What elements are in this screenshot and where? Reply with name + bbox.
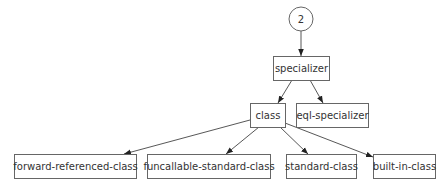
node-label: specializer bbox=[275, 63, 329, 74]
node-label: standard-class bbox=[285, 161, 358, 172]
root-node[interactable]: 2 bbox=[289, 7, 313, 31]
edge-class-standard-class bbox=[280, 127, 308, 154]
node-built-in-class[interactable]: built-in-class bbox=[373, 155, 436, 179]
edge-class-built-in-class bbox=[285, 123, 373, 157]
node-standard-class[interactable]: standard-class bbox=[285, 155, 358, 179]
node-label: funcallable-standard-class bbox=[143, 161, 274, 172]
edges bbox=[124, 31, 373, 157]
node-forward-referenced-class[interactable]: forward-referenced-class bbox=[13, 155, 137, 179]
node-funcallable-standard-class[interactable]: funcallable-standard-class bbox=[143, 155, 274, 179]
node-label: built-in-class bbox=[373, 161, 436, 172]
node-eql-specializer[interactable]: eql-specializer bbox=[296, 104, 369, 128]
node-class[interactable]: class bbox=[251, 104, 286, 128]
edge-class-forward-referenced-class bbox=[124, 120, 250, 154]
node-label: class bbox=[256, 110, 281, 121]
node-specializer[interactable]: specializer bbox=[274, 57, 330, 81]
node-label: forward-referenced-class bbox=[13, 161, 137, 172]
edge-specializer-eql-specializer bbox=[310, 80, 323, 103]
edge-class-funcallable-standard-class bbox=[226, 127, 259, 154]
root-label: 2 bbox=[298, 14, 304, 25]
edge-specializer-class bbox=[278, 80, 292, 103]
class-hierarchy-diagram: 2 specializer class eql-specializer forw… bbox=[0, 0, 447, 185]
node-label: eql-specializer bbox=[296, 110, 369, 121]
